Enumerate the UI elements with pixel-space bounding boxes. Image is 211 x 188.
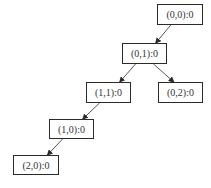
node-0-0: (0,0):0: [157, 4, 203, 25]
tree-diagram: (0,0):0 (0,1):0 (1,1):0 (0,2):0 (1,0):0 …: [0, 0, 211, 188]
edge-arrow: [83, 103, 100, 119]
edge-arrow: [48, 139, 63, 155]
edge-arrow: [154, 64, 174, 82]
edge-arrow: [120, 64, 136, 82]
edge-arrow: [156, 25, 171, 43]
node-2-0: (2,0):0: [13, 155, 59, 175]
node-0-2: (0,2):0: [158, 82, 203, 103]
node-0-1: (0,1):0: [122, 43, 167, 64]
node-1-0: (1,0):0: [49, 119, 94, 139]
node-1-1: (1,1):0: [86, 82, 131, 103]
